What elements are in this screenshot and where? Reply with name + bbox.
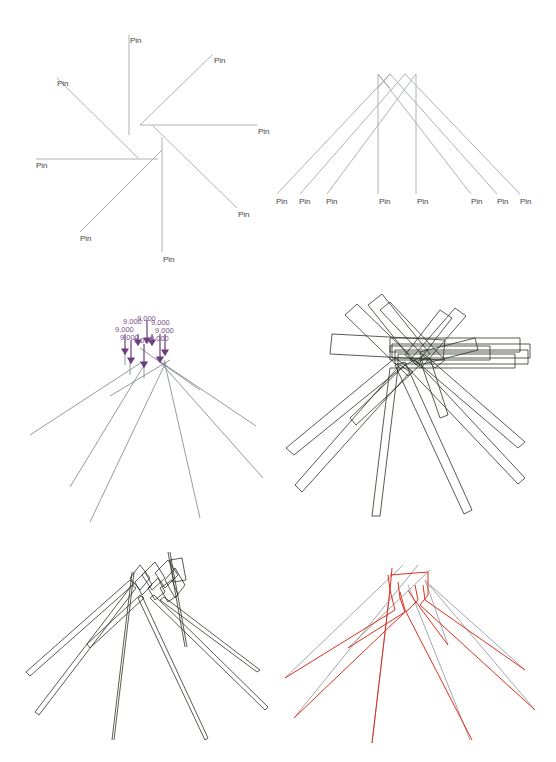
loads-diagram: 9.000 9.000 9.000 9.000 9.000 9.000 9.00…	[20, 300, 280, 530]
pin-label: Pin	[238, 210, 250, 219]
pin-label: Pin	[379, 197, 391, 206]
pin-label: Pin	[497, 197, 509, 206]
pin-label: Pin	[80, 234, 92, 243]
pin-label: Pin	[326, 197, 338, 206]
pin-label: Pin	[130, 36, 142, 45]
pin-label: Pin	[471, 197, 483, 206]
thin-beams-diagram	[20, 540, 280, 762]
pin-label: Pin	[299, 197, 311, 206]
pin-label: Pin	[163, 255, 175, 264]
load-value-labels: 9.000 9.000 9.000 9.000 9.000 9.000 9.00…	[115, 314, 174, 345]
pin-label: Pin	[57, 79, 69, 88]
pin-labels: Pin Pin Pin Pin Pin Pin Pin Pin	[36, 36, 270, 264]
deformed-shape	[285, 568, 535, 743]
pin-labels: Pin Pin Pin Pin Pin Pin Pin Pin	[276, 197, 532, 206]
fan-pins-diagram: Pin Pin Pin Pin Pin Pin Pin Pin	[270, 60, 556, 220]
pin-label: Pin	[417, 197, 429, 206]
pinwheel-diagram: Pin Pin Pin Pin Pin Pin Pin Pin	[0, 0, 280, 270]
panel-thick-beams	[280, 280, 556, 520]
panel-thin-beams	[20, 540, 280, 762]
panel-loads: 9.000 9.000 9.000 9.000 9.000 9.000 9.00…	[20, 300, 280, 530]
pin-label: Pin	[214, 56, 226, 65]
load-value: 9.000	[150, 334, 169, 343]
thick-beams-diagram	[280, 280, 556, 520]
undeformed-shape	[285, 565, 535, 743]
pin-label: Pin	[258, 127, 270, 136]
deformed-overlay-diagram	[280, 540, 556, 762]
pin-label: Pin	[36, 161, 48, 170]
panel-fan-pins: Pin Pin Pin Pin Pin Pin Pin Pin	[270, 60, 556, 220]
pin-label: Pin	[276, 197, 288, 206]
panel-deformed-overlay	[280, 540, 556, 762]
panel-pinwheel: Pin Pin Pin Pin Pin Pin Pin Pin	[0, 0, 280, 270]
pin-label: Pin	[520, 197, 532, 206]
